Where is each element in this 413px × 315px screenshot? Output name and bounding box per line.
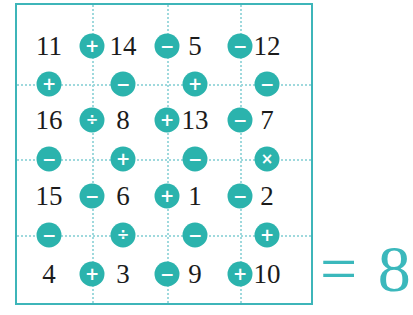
number-value: 16 — [36, 105, 63, 135]
plus-icon[interactable]: + — [37, 72, 62, 97]
grid-operator-horizontal: − — [155, 262, 180, 287]
grid-number: 2 — [260, 183, 274, 210]
grid-number: 3 — [116, 261, 130, 288]
minus-icon[interactable]: − — [80, 184, 105, 209]
grid-number: 6 — [116, 183, 130, 210]
minus-icon[interactable]: − — [228, 34, 253, 59]
number-value: 5 — [188, 31, 202, 61]
grid-number: 10 — [254, 261, 281, 288]
plus-icon[interactable]: + — [80, 34, 105, 59]
grid-operator-vertical: − — [255, 72, 280, 97]
number-value: 4 — [42, 259, 56, 289]
grid-operator-vertical: − — [37, 147, 62, 172]
number-value: 9 — [188, 259, 202, 289]
puzzle-cells: 11+14−5−12+−+−16÷8+13−7−+−×15−6+1−2−÷−+4… — [17, 5, 311, 303]
plus-icon[interactable]: + — [80, 262, 105, 287]
puzzle-grid-box: 11+14−5−12+−+−16÷8+13−7−+−×15−6+1−2−÷−+4… — [15, 3, 313, 305]
divide-icon[interactable]: ÷ — [80, 108, 105, 133]
number-value: 1 — [188, 181, 202, 211]
result-expression: = 8 — [320, 236, 413, 302]
number-value: 3 — [116, 259, 130, 289]
minus-icon[interactable]: − — [183, 223, 208, 248]
grid-operator-horizontal: ÷ — [80, 108, 105, 133]
grid-number: 7 — [260, 107, 274, 134]
number-value: 13 — [182, 105, 209, 135]
minus-icon[interactable]: − — [37, 147, 62, 172]
grid-operator-vertical: ÷ — [111, 223, 136, 248]
grid-operator-horizontal: + — [155, 108, 180, 133]
grid-operator-horizontal: − — [228, 108, 253, 133]
grid-number: 13 — [182, 107, 209, 134]
grid-operator-horizontal: − — [155, 34, 180, 59]
grid-number: 14 — [110, 33, 137, 60]
grid-number: 15 — [36, 183, 63, 210]
grid-operator-vertical: − — [37, 223, 62, 248]
plus-icon[interactable]: + — [255, 223, 280, 248]
grid-operator-vertical: + — [183, 72, 208, 97]
grid-number: 8 — [116, 107, 130, 134]
grid-operator-horizontal: + — [80, 34, 105, 59]
grid-number: 9 — [188, 261, 202, 288]
grid-number: 5 — [188, 33, 202, 60]
plus-icon[interactable]: + — [111, 147, 136, 172]
grid-operator-vertical: − — [183, 147, 208, 172]
grid-number: 12 — [254, 33, 281, 60]
number-value: 10 — [254, 259, 281, 289]
number-value: 2 — [260, 181, 274, 211]
grid-operator-horizontal: − — [228, 34, 253, 59]
grid-operator-vertical: + — [255, 223, 280, 248]
number-value: 15 — [36, 181, 63, 211]
plus-icon[interactable]: + — [155, 108, 180, 133]
grid-operator-horizontal: + — [155, 184, 180, 209]
number-value: 6 — [116, 181, 130, 211]
grid-operator-vertical: × — [255, 147, 280, 172]
grid-number: 4 — [42, 261, 56, 288]
number-value: 11 — [36, 31, 62, 61]
minus-icon[interactable]: − — [183, 147, 208, 172]
divide-icon[interactable]: ÷ — [111, 223, 136, 248]
grid-number: 16 — [36, 107, 63, 134]
plus-icon[interactable]: + — [228, 262, 253, 287]
minus-icon[interactable]: − — [111, 72, 136, 97]
minus-icon[interactable]: − — [255, 72, 280, 97]
grid-number: 11 — [36, 33, 62, 60]
minus-icon[interactable]: − — [228, 108, 253, 133]
grid-number: 1 — [188, 183, 202, 210]
number-value: 7 — [260, 105, 274, 135]
minus-icon[interactable]: − — [37, 223, 62, 248]
grid-operator-horizontal: + — [80, 262, 105, 287]
plus-icon[interactable]: + — [183, 72, 208, 97]
grid-operator-vertical: + — [111, 147, 136, 172]
plus-icon[interactable]: + — [155, 184, 180, 209]
number-value: 12 — [254, 31, 281, 61]
minus-icon[interactable]: − — [228, 184, 253, 209]
multiply-icon[interactable]: × — [255, 147, 280, 172]
number-value: 14 — [110, 31, 137, 61]
minus-icon[interactable]: − — [155, 34, 180, 59]
minus-icon[interactable]: − — [155, 262, 180, 287]
grid-operator-vertical: + — [37, 72, 62, 97]
grid-operator-horizontal: + — [228, 262, 253, 287]
grid-operator-vertical: − — [111, 72, 136, 97]
number-value: 8 — [116, 105, 130, 135]
grid-operator-vertical: − — [183, 223, 208, 248]
grid-operator-horizontal: − — [228, 184, 253, 209]
grid-operator-horizontal: − — [80, 184, 105, 209]
